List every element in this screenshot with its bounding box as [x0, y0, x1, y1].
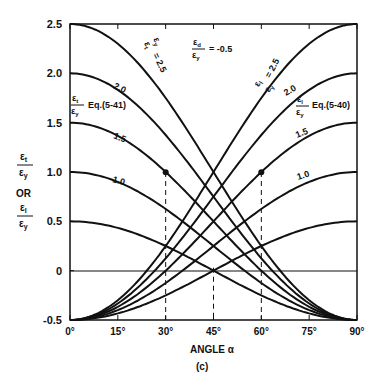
y-tick-label: 1.5 — [47, 117, 62, 129]
x-tick-label: 30° — [158, 326, 173, 337]
svg-text:εy: εy — [150, 36, 163, 48]
point-60deg — [258, 169, 264, 175]
curves — [70, 24, 357, 320]
label-asc-1.0: 1.0 — [296, 169, 311, 182]
point-30deg — [163, 169, 169, 175]
label-desc-2.0: 2.0 — [112, 81, 128, 95]
svg-text:= 2.5: = 2.5 — [151, 51, 169, 74]
eq540-den: εy — [296, 107, 304, 118]
eq541-num: εt — [72, 93, 78, 104]
x-tick-label: 45° — [206, 326, 221, 337]
x-tick-label: 60° — [254, 326, 269, 337]
ylabel-top-den: εy — [19, 167, 28, 180]
caption: (c) — [196, 361, 208, 372]
y-tick-label: 0 — [56, 265, 62, 277]
param-value: = -0.5 — [209, 44, 232, 54]
y-tick-label: -0.5 — [43, 314, 62, 326]
ylabel-bottom-num: εl — [20, 202, 27, 214]
y-tick-label: 2.0 — [47, 67, 62, 79]
y-tick-label: 2.5 — [47, 18, 62, 30]
param-num: εd — [193, 37, 201, 48]
eq540-text: Eq.(5-40) — [312, 100, 350, 110]
param-den: εy — [192, 50, 200, 61]
y-tick-labels: -0.500.51.01.52.02.5 — [43, 18, 62, 326]
x-tick-label: 0° — [65, 326, 75, 337]
x-tick-labels: 0°15°30°45°60°75°90° — [65, 326, 364, 337]
chart: -0.500.51.01.52.02.5 0°15°30°45°60°75°90… — [0, 0, 385, 388]
x-tick-label: 90° — [349, 326, 364, 337]
y-tick-label: 1.0 — [47, 166, 62, 178]
x-tick-label: 75° — [302, 326, 317, 337]
label-asc-2.0: 2.0 — [282, 83, 298, 98]
series-line — [70, 73, 357, 320]
eq541-text: Eq.(5-41) — [88, 100, 126, 110]
eq541-den: εy — [71, 106, 79, 117]
series-line — [70, 24, 357, 320]
label-desc-2.5: εt εy = 2.5 — [141, 36, 175, 76]
y-tick-label: 0.5 — [47, 215, 62, 227]
ylabel-top-num: εt — [20, 151, 28, 163]
x-axis-title: ANGLE α — [190, 344, 235, 355]
label-desc-1.5: 1.5 — [112, 131, 127, 145]
ylabel-or: OR — [16, 188, 32, 199]
label-desc-1.0: 1.0 — [111, 174, 126, 187]
ylabel-bottom-den: εy — [19, 218, 28, 231]
x-tick-label: 15° — [110, 326, 125, 337]
